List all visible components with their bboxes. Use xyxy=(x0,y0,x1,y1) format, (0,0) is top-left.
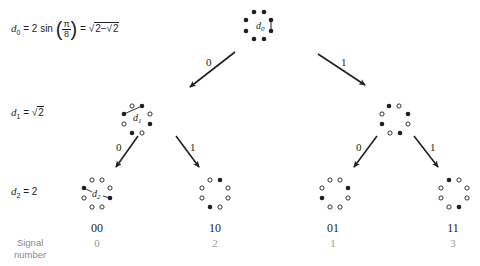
code-01: 01 xyxy=(327,221,339,236)
constellation-10 xyxy=(200,178,230,210)
signal-number-1: 1 xyxy=(330,237,336,249)
code-11: 11 xyxy=(447,221,459,236)
branch-label-11: 1 xyxy=(430,141,436,153)
signal-number-3: 3 xyxy=(450,237,456,249)
signal-number-0: 0 xyxy=(94,237,100,249)
constellation-root: d0 xyxy=(244,10,274,42)
code-10: 10 xyxy=(209,221,221,236)
constellation-level1-right xyxy=(380,104,411,136)
svg-text:d2: d2 xyxy=(92,188,101,201)
constellation-00: d2 xyxy=(82,178,113,209)
branch-label-root-1: 1 xyxy=(341,56,347,68)
svg-text:d1: d1 xyxy=(133,112,142,125)
equation-d0: d0 = 2 sin (π8) = √2−√2 xyxy=(11,18,119,41)
constellation-01 xyxy=(320,178,351,209)
signal-label-line1: Signal xyxy=(14,237,46,249)
arrow-l1left-to-10 xyxy=(176,136,199,167)
equation-d1: d1 = √2 xyxy=(11,106,44,120)
branch-label-10: 1 xyxy=(190,141,196,153)
equation-d2: d2 = 2 xyxy=(11,185,37,199)
code-00: 00 xyxy=(91,221,103,236)
branch-label-01: 0 xyxy=(356,141,362,153)
constellation-11 xyxy=(439,178,469,210)
constellation-level1-left: d1 xyxy=(122,104,153,136)
signal-number-label: Signal number xyxy=(14,237,46,261)
signal-number-2: 2 xyxy=(212,237,218,249)
branch-label-00: 0 xyxy=(116,141,122,153)
svg-text:d0: d0 xyxy=(256,20,265,33)
arrow-root-to-left xyxy=(190,52,235,87)
signal-label-line2: number xyxy=(14,249,46,261)
branch-label-root-0: 0 xyxy=(206,56,212,68)
